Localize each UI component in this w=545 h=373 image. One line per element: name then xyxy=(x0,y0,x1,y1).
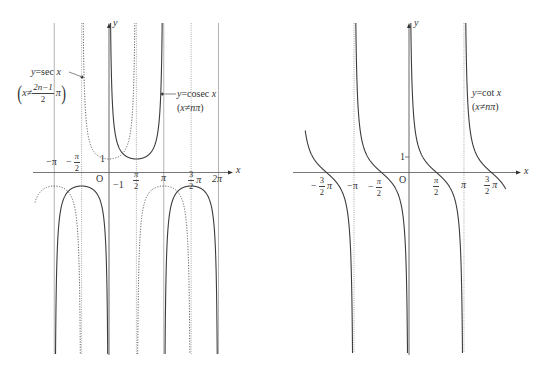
tick-fraction: 3 2 xyxy=(188,170,194,190)
left-y-axis-label: y xyxy=(113,18,117,28)
fraction-numerator: π xyxy=(133,170,139,181)
tick-sign: − xyxy=(368,182,374,192)
cot-equation-label: y=cot x xyxy=(472,88,501,98)
right-tick-neg-three-half-pi: − 3 2 π xyxy=(311,176,332,196)
left-tick-neg-half-pi: − π 2 xyxy=(66,152,80,172)
sec-curve xyxy=(35,186,80,354)
tick-fraction: π 2 xyxy=(133,170,139,190)
close-paren: ) xyxy=(200,102,203,113)
right-x-axis-label: x xyxy=(524,166,528,176)
fraction-numerator: 2n−1 xyxy=(32,83,54,94)
right-tick-half-pi: π 2 xyxy=(433,176,439,196)
sec-leader-line xyxy=(69,72,81,77)
fraction-numerator: π xyxy=(433,176,439,187)
tick-suffix: π xyxy=(492,180,497,190)
right-tick-y-one: 1 xyxy=(400,152,405,162)
left-tick-neg-pi: −π xyxy=(46,157,57,167)
tick-suffix: π xyxy=(327,181,332,191)
left-origin-label: O xyxy=(96,174,103,184)
sec-label-leader xyxy=(69,72,84,79)
equation-var: x xyxy=(212,88,216,99)
tick-fraction: 3 2 xyxy=(319,176,325,196)
equation-var: x xyxy=(497,87,501,98)
fraction-numerator: π xyxy=(74,152,80,163)
x-axis-arrow-icon xyxy=(228,171,233,175)
cosec-label-leader xyxy=(161,93,176,96)
right-origin-label: O xyxy=(399,175,406,185)
fraction-numerator: 3 xyxy=(319,176,325,187)
left-tick-y-neg-one: −1 xyxy=(113,180,124,190)
fraction-denominator: 2 xyxy=(485,186,489,196)
equation-var: x xyxy=(56,66,60,77)
cosec-equation-label: y=cosec x xyxy=(177,89,216,99)
fraction-denominator: 2 xyxy=(75,163,79,173)
cosec-domain-condition: (x≠nπ) xyxy=(177,103,204,113)
tick-sign: − xyxy=(311,181,317,191)
right-tick-pi: π xyxy=(461,180,466,190)
fraction-denominator: 2 xyxy=(41,94,46,104)
right-tick-three-half-pi: 3 2 π xyxy=(484,175,497,195)
fraction-denominator: 2 xyxy=(377,188,381,198)
cot-curve xyxy=(305,130,352,353)
condition-lhs: x≠ xyxy=(22,88,32,98)
fraction-numerator: π xyxy=(376,177,382,188)
left-tick-three-half-pi: 3 2 π xyxy=(188,170,201,190)
tick-fraction: 3 2 xyxy=(484,175,490,195)
tick-sign: − xyxy=(66,157,72,167)
figure-canvas: y x O −π − π 2 1 −1 π 2 π 3 2 π 2π y=sec… xyxy=(0,0,545,373)
condition-body: x≠nπ xyxy=(475,101,495,112)
equation-rhs: =cot xyxy=(476,87,496,98)
left-tick-two-pi: 2π xyxy=(212,174,222,184)
sec-domain-condition: ( x≠ 2n−1 2 π ) xyxy=(17,82,66,104)
right-tick-neg-pi: −π xyxy=(347,181,358,191)
left-tick-half-pi: π 2 xyxy=(133,170,139,190)
fraction-numerator: 3 xyxy=(484,175,490,186)
left-x-axis-label: x xyxy=(236,165,240,175)
left-tick-y-one: 1 xyxy=(100,154,105,164)
tick-fraction: π 2 xyxy=(433,176,439,196)
fraction-denominator: 2 xyxy=(134,181,138,191)
fraction-denominator: 2 xyxy=(320,187,324,197)
close-paren: ) xyxy=(61,82,66,104)
right-y-axis-label: y xyxy=(414,18,418,28)
close-paren: ) xyxy=(495,101,498,112)
fraction-denominator: 2 xyxy=(189,181,193,191)
tick-fraction: π 2 xyxy=(74,152,80,172)
right-tick-neg-half-pi: − π 2 xyxy=(368,177,382,197)
condition-fraction: 2n−1 2 xyxy=(32,83,54,104)
condition-pi: π xyxy=(56,88,61,98)
condition-body: x≠nπ xyxy=(180,102,200,113)
left-tick-pi: π xyxy=(161,173,166,183)
fraction-denominator: 2 xyxy=(434,187,438,197)
equation-rhs: =cosec xyxy=(181,88,211,99)
equation-rhs: =sec xyxy=(35,66,56,77)
cot-domain-condition: (x≠nπ) xyxy=(472,102,499,112)
sec-equation-label: y=sec x xyxy=(31,67,61,77)
tick-suffix: π xyxy=(196,175,201,185)
fraction-numerator: 3 xyxy=(188,170,194,181)
x-axis-arrow-icon xyxy=(516,171,521,175)
tick-fraction: π 2 xyxy=(376,177,382,197)
open-paren: ( xyxy=(17,82,22,104)
